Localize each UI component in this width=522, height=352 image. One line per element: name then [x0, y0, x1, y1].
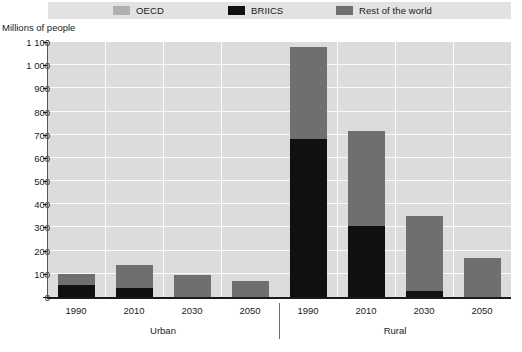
legend-label-briics: BRIICS [251, 5, 283, 16]
gridline-600 [47, 157, 511, 158]
plot-area [47, 42, 511, 297]
gridline-1000 [47, 64, 511, 65]
bar-segment-rest-of-world [406, 216, 443, 291]
gridline-800 [47, 111, 511, 112]
bar-segment-briics [290, 139, 327, 297]
bar-urban-2050[interactable] [232, 281, 269, 297]
vertical-gridline-6 [395, 42, 396, 297]
vertical-gridline-5 [337, 42, 338, 297]
bar-urban-2030[interactable] [174, 275, 211, 297]
legend-item-briics[interactable]: BRIICS [228, 2, 283, 19]
chart-page: OECD BRIICS Rest of the world Millions o… [0, 0, 522, 352]
vertical-gridline-7 [453, 42, 454, 297]
x-group-label-urban: Urban [150, 325, 176, 336]
bar-segment-rest-of-world [290, 47, 327, 140]
bar-urban-1990[interactable] [58, 274, 95, 297]
legend-label-rest-of-world: Rest of the world [359, 5, 432, 16]
bar-segment-briics [116, 288, 153, 297]
bar-segment-rest-of-world [174, 275, 211, 297]
x-tick-label-rural-2050: 2050 [471, 305, 492, 316]
x-tick-label-rural-1990: 1990 [297, 305, 318, 316]
x-axis-line [47, 297, 511, 299]
x-tick-label-urban-2030: 2030 [181, 305, 202, 316]
vertical-gridline-1 [105, 42, 106, 297]
bar-segment-briics [348, 226, 385, 297]
bar-rural-2030[interactable] [406, 216, 443, 297]
legend-item-oecd[interactable]: OECD [113, 2, 164, 19]
x-tick-label-rural-2030: 2030 [413, 305, 434, 316]
x-group-label-rural: Rural [384, 325, 407, 336]
y-axis-line [47, 42, 48, 297]
vertical-gridline-3 [221, 42, 222, 297]
x-tick-label-urban-2050: 2050 [239, 305, 260, 316]
x-tick-label-rural-2010: 2010 [355, 305, 376, 316]
x-tick-label-urban-2010: 2010 [123, 305, 144, 316]
bar-rural-2050[interactable] [464, 258, 501, 297]
bar-rural-1990[interactable] [290, 47, 327, 297]
gridline-500 [47, 180, 511, 181]
bar-segment-rest-of-world [116, 265, 153, 288]
plot-wrapper: 01002003004005006007008009001 0001 100 [0, 36, 522, 301]
legend-label-oecd: OECD [136, 5, 164, 16]
bar-segment-briics [58, 285, 95, 297]
bar-segment-rest-of-world [464, 258, 501, 297]
chart-legend: OECD BRIICS Rest of the world [48, 2, 511, 19]
y-axis-title: Millions of people [2, 22, 75, 33]
vertical-gridline-2 [163, 42, 164, 297]
legend-item-rest-of-world[interactable]: Rest of the world [336, 2, 432, 19]
bar-segment-rest-of-world [348, 131, 385, 226]
x-tick-label-urban-1990: 1990 [65, 305, 86, 316]
bar-urban-2010[interactable] [116, 265, 153, 297]
gridline-900 [47, 87, 511, 88]
gridline-400 [47, 203, 511, 204]
legend-swatch-oecd [113, 6, 130, 15]
group-divider [279, 303, 280, 339]
bar-rural-2010[interactable] [348, 131, 385, 297]
legend-swatch-rest-of-world [336, 6, 353, 15]
bar-segment-rest-of-world [232, 281, 269, 297]
gridline-700 [47, 134, 511, 135]
bar-segment-rest-of-world [58, 274, 95, 286]
legend-swatch-briics [228, 6, 245, 15]
